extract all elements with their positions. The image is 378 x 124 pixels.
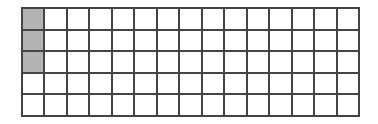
grid-cell bbox=[203, 9, 225, 31]
grid-cell bbox=[225, 31, 247, 53]
grid-cell bbox=[45, 95, 67, 117]
grid-cell bbox=[225, 9, 247, 31]
grid-cell bbox=[135, 9, 157, 31]
grid-cell bbox=[338, 52, 360, 74]
grid-cell bbox=[158, 9, 180, 31]
grid-cell bbox=[68, 74, 90, 96]
grid-cell bbox=[68, 31, 90, 53]
grid-cell bbox=[113, 52, 135, 74]
grid-cell bbox=[135, 52, 157, 74]
grid-cell bbox=[158, 31, 180, 53]
grid-cell bbox=[248, 95, 270, 117]
grid-cell bbox=[315, 31, 337, 53]
grid-cell bbox=[225, 95, 247, 117]
grid-cell bbox=[180, 52, 202, 74]
grid-cell bbox=[180, 74, 202, 96]
grid-cell bbox=[45, 31, 67, 53]
grid-cell bbox=[338, 74, 360, 96]
grid-cell bbox=[270, 31, 292, 53]
grid-cell bbox=[45, 74, 67, 96]
grid-cell bbox=[90, 74, 112, 96]
grid-cell bbox=[293, 31, 315, 53]
grid-cell bbox=[270, 95, 292, 117]
grid-cell bbox=[248, 52, 270, 74]
grid-cell bbox=[135, 74, 157, 96]
grid-cell bbox=[113, 9, 135, 31]
grid-cell bbox=[225, 52, 247, 74]
grid-cell bbox=[270, 52, 292, 74]
grid-cell bbox=[90, 95, 112, 117]
grid-cell bbox=[90, 31, 112, 53]
grid-cell-shaded bbox=[23, 52, 45, 74]
grid-cell bbox=[203, 74, 225, 96]
grid-cell bbox=[45, 52, 67, 74]
grid-cell bbox=[113, 95, 135, 117]
grid-cell bbox=[113, 74, 135, 96]
grid-cell bbox=[225, 74, 247, 96]
grid-cell bbox=[68, 9, 90, 31]
grid-cell bbox=[158, 74, 180, 96]
grid-cell bbox=[315, 52, 337, 74]
grid-cell bbox=[293, 95, 315, 117]
grid-cell bbox=[158, 95, 180, 117]
grid-cell-shaded bbox=[23, 9, 45, 31]
grid-cell bbox=[180, 95, 202, 117]
grid-cell bbox=[203, 31, 225, 53]
grid-cell bbox=[315, 95, 337, 117]
grid-cell bbox=[23, 74, 45, 96]
grid-cell bbox=[270, 9, 292, 31]
grid-cell bbox=[68, 95, 90, 117]
grid-cell bbox=[203, 95, 225, 117]
grid-cell bbox=[293, 9, 315, 31]
grid-cell bbox=[338, 9, 360, 31]
fraction-grid bbox=[21, 7, 360, 117]
grid-cell bbox=[90, 52, 112, 74]
grid-cell bbox=[248, 9, 270, 31]
grid-cell bbox=[315, 74, 337, 96]
grid-cell bbox=[248, 31, 270, 53]
grid-cell bbox=[113, 31, 135, 53]
grid-cell bbox=[23, 95, 45, 117]
grid-cell bbox=[90, 9, 112, 31]
grid-cell bbox=[180, 31, 202, 53]
grid-cell bbox=[203, 52, 225, 74]
grid-cell bbox=[135, 31, 157, 53]
grid-cell bbox=[270, 74, 292, 96]
grid-cell bbox=[158, 52, 180, 74]
grid-cell bbox=[248, 74, 270, 96]
grid-cell bbox=[338, 31, 360, 53]
grid-cell-shaded bbox=[23, 31, 45, 53]
grid-cell bbox=[180, 9, 202, 31]
grid-cell bbox=[293, 52, 315, 74]
grid-cell bbox=[135, 95, 157, 117]
grid-cell bbox=[68, 52, 90, 74]
grid-cell bbox=[45, 9, 67, 31]
grid-cell bbox=[315, 9, 337, 31]
grid-cell bbox=[338, 95, 360, 117]
grid-cell bbox=[293, 74, 315, 96]
